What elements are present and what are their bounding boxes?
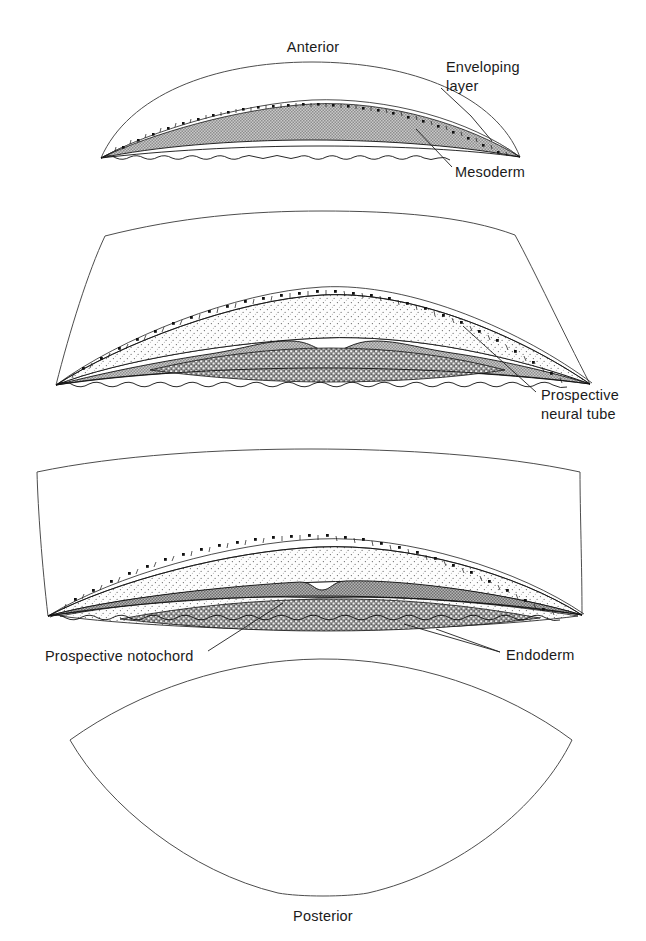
leader-endoderm — [404, 624, 500, 652]
label-anterior: Anterior — [287, 39, 339, 55]
panel-2-basal-wavy-line — [58, 382, 567, 387]
label-prospective-neural-tube-line2: neural tube — [541, 406, 616, 422]
panel-upper-middle — [56, 211, 592, 392]
panel-posterior — [70, 659, 572, 896]
label-mesoderm: Mesoderm — [455, 164, 525, 180]
label-posterior: Posterior — [293, 908, 353, 924]
label-prospective-neural-tube-line1: Prospective — [541, 387, 619, 403]
panel-lower-middle — [37, 449, 584, 652]
label-endoderm: Endoderm — [506, 647, 575, 663]
label-enveloping-layer-line1: Enveloping — [446, 59, 520, 75]
panel-1-basal-wavy-line — [103, 156, 450, 161]
figure-canvas: Anterior Enveloping layer Mesoderm Prosp… — [0, 0, 646, 941]
panel-4-outline — [70, 659, 572, 896]
label-prospective-notochord: Prospective notochord — [45, 648, 193, 664]
leader-endoderm-2 — [436, 629, 500, 652]
label-enveloping-layer-line2: layer — [446, 78, 478, 94]
diagram-svg: Anterior Enveloping layer Mesoderm Prosp… — [0, 0, 646, 941]
